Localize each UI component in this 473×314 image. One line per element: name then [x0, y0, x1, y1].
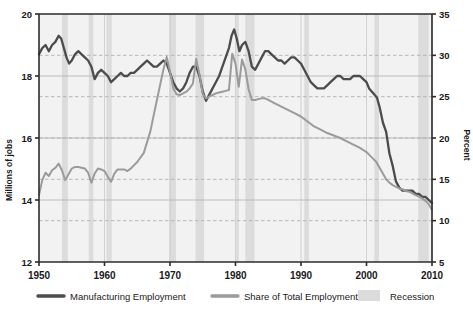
x-tick-label: 1970 [159, 270, 182, 281]
left-tick-label: 16 [21, 133, 32, 144]
right-tick-label: 30 [439, 50, 450, 61]
right-tick-label: 15 [439, 174, 450, 185]
legend-label: Share of Total Employment [244, 291, 358, 302]
right-tick-label: 20 [439, 133, 450, 144]
right-tick-label: 5 [439, 257, 445, 268]
legend-label: Recession [390, 291, 434, 302]
right-tick-label: 25 [439, 91, 450, 102]
legend-label: Manufacturing Employment [70, 291, 186, 302]
left-tick-label: 20 [21, 9, 32, 20]
left-tick-label: 18 [21, 71, 32, 82]
x-tick-label: 1980 [224, 270, 247, 281]
left-tick-label: 14 [21, 195, 32, 206]
x-tick-label: 1950 [28, 270, 51, 281]
chart-figure: 1214161820510152025303519501960197019801… [0, 0, 473, 314]
left-tick-label: 12 [21, 257, 32, 268]
left-axis-title: Millions of jobs [4, 139, 14, 201]
x-tick-label: 2000 [355, 270, 378, 281]
x-tick-label: 2010 [421, 270, 444, 281]
right-tick-label: 35 [439, 9, 450, 20]
legend-color-swatch [358, 290, 380, 301]
x-tick-label: 1960 [93, 270, 116, 281]
employment-chart: 1214161820510152025303519501960197019801… [0, 0, 473, 314]
right-tick-label: 10 [439, 215, 450, 226]
x-tick-label: 1990 [290, 270, 313, 281]
right-axis-title: Percent [462, 129, 472, 160]
